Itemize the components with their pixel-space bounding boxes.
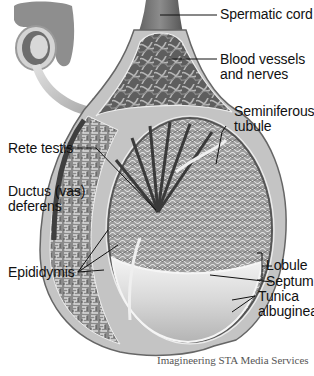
label-blood-vessels-line2: and nerves <box>220 67 288 82</box>
label-epididymis: Epididymis <box>8 265 75 280</box>
image-credit: Imagineering STA Media Services <box>157 354 309 366</box>
label-seminiferous-tubule-line2: tubule <box>234 119 272 134</box>
label-lobule: Lobule <box>266 258 307 273</box>
inset-external-view <box>14 2 74 71</box>
label-spermatic-cord: Spermatic cord <box>220 7 313 22</box>
label-ductus-deferens: Ductus (vas) <box>8 184 85 199</box>
label-rete-testis: Rete testis <box>8 141 73 156</box>
label-tunica-albuginea-line2: albuginea <box>258 304 314 319</box>
testis-diagram: Spermatic cord Blood vessels and nerves … <box>0 0 314 376</box>
label-seminiferous-tubule: Seminiferous <box>234 104 314 119</box>
label-tunica-albuginea: Tunica <box>258 289 299 304</box>
label-blood-vessels: Blood vessels <box>220 52 305 67</box>
label-ductus-deferens-line2: deferens <box>8 199 62 214</box>
label-septum: Septum <box>266 274 314 289</box>
